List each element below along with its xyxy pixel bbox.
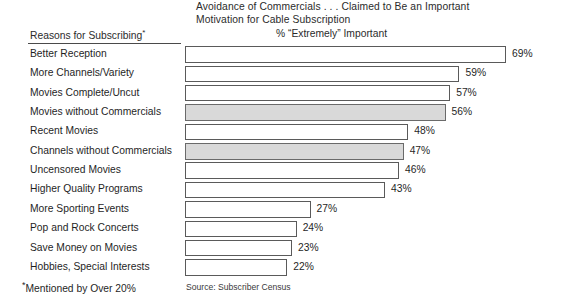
footnote: *Mentioned by Over 20% <box>22 280 136 294</box>
bar-value-label: 23% <box>298 242 319 253</box>
bar-value-label: 43% <box>391 183 412 194</box>
row-label: Hobbies, Special Interests <box>30 261 150 272</box>
chart-row: Save Money on Movies23% <box>0 239 562 258</box>
chart-row: Hobbies, Special Interests22% <box>0 258 562 277</box>
footnote-text: Mentioned by Over 20% <box>26 283 136 294</box>
chart-row: Movies Complete/Uncut57% <box>0 84 562 103</box>
row-label: Better Reception <box>30 48 107 59</box>
bar <box>185 182 385 198</box>
bar-value-label: 59% <box>465 67 486 78</box>
row-label: Pop and Rock Concerts <box>30 222 139 233</box>
bar-value-label: 56% <box>452 106 473 117</box>
column-header-asterisk: * <box>142 28 145 37</box>
bar-value-label: 46% <box>405 164 426 175</box>
row-label: Higher Quality Programs <box>30 183 143 194</box>
bar <box>185 124 408 140</box>
row-label: Movies without Commercials <box>30 106 161 117</box>
row-label: Recent Movies <box>30 125 98 136</box>
chart-title-line-1: Avoidance of Commercials . . . Claimed t… <box>196 1 556 14</box>
row-label: Save Money on Movies <box>30 242 137 253</box>
chart-row: Recent Movies48% <box>0 122 562 141</box>
column-header-percent: % “Extremely” Important <box>276 28 387 39</box>
row-label: More Sporting Events <box>30 203 129 214</box>
bar-value-label: 24% <box>303 222 324 233</box>
bar <box>185 66 459 82</box>
bar <box>185 46 506 62</box>
source-note: Source: Subscriber Census <box>186 282 291 292</box>
bar-value-label: 48% <box>414 125 435 136</box>
chart-title: Avoidance of Commercials . . . Claimed t… <box>196 1 556 26</box>
row-label: Movies Complete/Uncut <box>30 87 139 98</box>
chart-row: Uncensored Movies46% <box>0 161 562 180</box>
chart-row: Movies without Commercials56% <box>0 103 562 122</box>
row-label: Channels without Commercials <box>30 145 172 156</box>
bar-chart-plot-area: Better Reception69%More Channels/Variety… <box>0 45 562 278</box>
bar-value-label: 47% <box>410 145 431 156</box>
bar <box>185 221 297 237</box>
chart-row: More Channels/Variety59% <box>0 64 562 83</box>
chart-row: Better Reception69% <box>0 45 562 64</box>
bar <box>185 240 292 256</box>
chart-row: Higher Quality Programs43% <box>0 180 562 199</box>
bar-value-label: 69% <box>512 48 533 59</box>
chart-row: Pop and Rock Concerts24% <box>0 219 562 238</box>
header-divider-rule <box>28 43 181 44</box>
bar <box>185 85 450 101</box>
chart-title-line-2: Motivation for Cable Subscription <box>196 14 556 27</box>
column-header-reasons: Reasons for Subscribing* <box>30 28 145 41</box>
chart-row: More Sporting Events27% <box>0 200 562 219</box>
row-label: More Channels/Variety <box>30 67 134 78</box>
bar-value-label: 27% <box>317 203 338 214</box>
chart-row: Channels without Commercials47% <box>0 142 562 161</box>
bar-value-label: 22% <box>293 261 314 272</box>
bar <box>185 259 287 275</box>
bar <box>185 201 311 217</box>
column-header-reasons-text: Reasons for Subscribing <box>30 30 142 41</box>
bar-highlighted <box>185 104 446 120</box>
bar <box>185 162 399 178</box>
row-label: Uncensored Movies <box>30 164 121 175</box>
bar-highlighted <box>185 143 404 159</box>
cable-subscription-bar-chart-page: { "title": { "line1": "Avoidance of Comm… <box>0 0 562 297</box>
bar-value-label: 57% <box>456 87 477 98</box>
